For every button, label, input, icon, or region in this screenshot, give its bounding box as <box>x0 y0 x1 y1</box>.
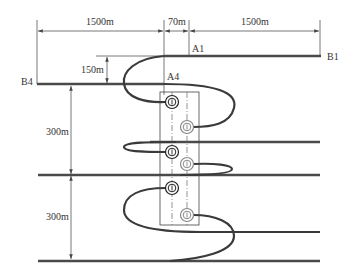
wellhead-2-light-icon <box>181 121 194 134</box>
label-b1: B1 <box>327 51 339 62</box>
spacing-label-lower: 300m <box>46 211 69 222</box>
wellhead-5-dark-icon <box>166 182 179 195</box>
label-a4: A4 <box>167 71 179 82</box>
curve-well-6 <box>170 215 234 261</box>
wellhead-4-light-icon <box>181 158 194 171</box>
diagram-canvas: 1500m 70m 1500m 150m 300m 300m <box>0 0 354 277</box>
well-pad-box <box>160 92 199 225</box>
wellhead-1-dark-icon <box>166 96 179 109</box>
wellheads <box>166 96 194 222</box>
wellhead-6-light-icon <box>181 209 194 222</box>
wellhead-3-dark-icon <box>166 146 179 159</box>
curve-well-5 <box>124 188 320 232</box>
spacing-label-upper: 300m <box>46 126 69 137</box>
well-layout-diagram: 1500m 70m 1500m 150m 300m 300m <box>0 0 354 277</box>
well-laterals <box>37 56 321 261</box>
spacing-dimensions: 300m 300m <box>46 86 71 259</box>
offset-dimension: 150m <box>81 56 164 83</box>
label-b4: B4 <box>21 76 33 87</box>
dim-label-right: 1500m <box>241 16 269 27</box>
offset-label: 150m <box>81 64 104 75</box>
label-a1: A1 <box>192 43 204 54</box>
dim-label-left: 1500m <box>86 16 114 27</box>
dim-label-middle: 70m <box>168 16 186 27</box>
well-curves <box>124 56 320 261</box>
